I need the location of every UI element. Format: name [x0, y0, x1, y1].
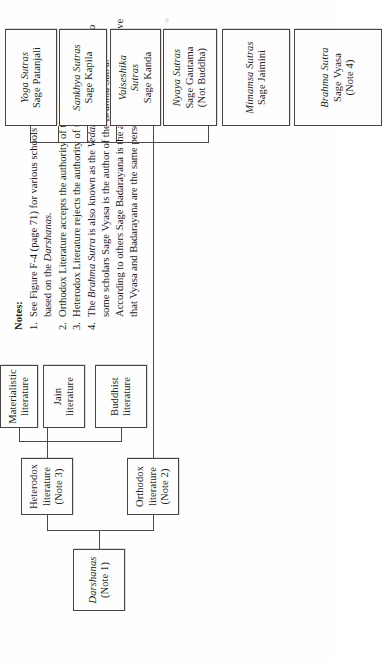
node-sankhya-sutras[interactable]: Sankhya Sutras Sage Kapila: [59, 29, 107, 126]
node-yoga-sutras-line2: Sage Patanjali: [31, 47, 43, 108]
connector-root-stem: [99, 531, 100, 549]
node-jain-line1: Jain: [52, 388, 64, 405]
scan-artifact: [165, 18, 169, 23]
connector-to-jain: [47, 428, 48, 442]
connector-to-sankhya: [58, 126, 59, 143]
note-number-2: 2.: [56, 322, 70, 330]
node-brahma-sutra[interactable]: Brahma Sutra Sage Vyasa (Note 4): [294, 29, 382, 126]
connector-to-heterodox: [47, 515, 48, 531]
node-darshanas-line1: Darshanas: [87, 557, 99, 604]
node-orthodox-line3: (Note 2): [159, 468, 171, 504]
node-orthodox[interactable]: Orthodox literature (Note 2): [127, 458, 179, 515]
connector-to-brahma: [208, 126, 209, 143]
connector-heterodox-bus: [19, 441, 121, 442]
node-heterodox-line3: (Note 3): [53, 468, 65, 504]
node-nyaya-sutras-line2: Sage Gautama: [184, 46, 196, 108]
node-nyaya-sutras-line3: (Not Buddha): [196, 48, 208, 107]
node-materialistic[interactable]: Materialistic literature: [0, 365, 38, 428]
note-number-1: 1.: [27, 322, 41, 330]
node-mimamsa-sutras-line2: Sage Jaimini: [256, 50, 268, 105]
node-materialistic-line1: Materialistic: [7, 369, 19, 423]
connector-to-mimamsa: [153, 126, 154, 143]
node-brahma-sutra-line1: Brahma Sutra: [319, 47, 331, 107]
node-buddhist-line2: literature: [121, 377, 133, 416]
node-nyaya-sutras[interactable]: Nyaya Sutras Sage Gautama (Not Buddha): [163, 29, 217, 126]
note-number-4: 4.: [85, 322, 99, 330]
connector-sutras-bus: [30, 142, 208, 143]
node-jain[interactable]: Jain literature: [43, 365, 85, 428]
connector-to-yoga: [30, 126, 31, 143]
node-darshanas-line2: (Note 1): [99, 562, 111, 598]
connector-to-nyaya: [116, 126, 117, 143]
node-orthodox-line1: Orthodox: [134, 466, 146, 507]
node-buddhist-line1: Buddhist: [109, 377, 121, 416]
connector-heterodox-stem: [47, 442, 48, 458]
node-nyaya-sutras-line1: Nyaya Sutras: [171, 49, 183, 107]
node-materialistic-line2: literature: [19, 377, 31, 416]
node-sankhya-sutras-line2: Sage Kapila: [83, 51, 95, 103]
node-vaiseshika-sutras-line2: Sutras: [129, 64, 141, 91]
node-vaiseshika-sutras-line1: Vaiseshika: [117, 55, 129, 100]
connector-to-orthodox: [153, 515, 154, 531]
node-mimamsa-sutras-line1: Mimamsa Sutras: [244, 41, 256, 113]
node-heterodox[interactable]: Heterodox literature (Note 3): [21, 458, 73, 515]
node-jain-line2: literature: [64, 377, 76, 416]
node-brahma-sutra-line3: (Note 4): [344, 59, 356, 95]
connector-to-buddhist: [121, 428, 122, 442]
connector-to-materialistic: [19, 428, 20, 442]
node-vaiseshika-sutras[interactable]: Vaiseshika Sutras Sage Kanda: [110, 29, 161, 126]
connector-orthodox-stem: [153, 143, 154, 458]
note-number-3: 3.: [70, 322, 84, 330]
node-yoga-sutras-line1: Yoga Sutras: [19, 52, 31, 103]
node-sankhya-sutras-line1: Sankhya Sutras: [71, 44, 83, 110]
connector-root-bus: [47, 530, 153, 531]
node-brahma-sutra-line2: Sage Vyasa: [332, 53, 344, 102]
node-mimamsa-sutras[interactable]: Mimamsa Sutras Sage Jaimini: [222, 29, 290, 126]
node-heterodox-line1: Heterodox: [28, 464, 40, 509]
node-darshanas[interactable]: Darshanas (Note 1): [73, 549, 125, 611]
node-yoga-sutras[interactable]: Yoga Sutras Sage Patanjali: [5, 29, 57, 126]
node-buddhist[interactable]: Buddhist literature: [95, 365, 147, 428]
connector-to-vaiseshika: [87, 126, 88, 143]
node-heterodox-line2: literature: [41, 467, 53, 506]
node-vaiseshika-sutras-line3: Sage Kanda: [142, 52, 154, 103]
node-orthodox-line2: literature: [147, 467, 159, 506]
